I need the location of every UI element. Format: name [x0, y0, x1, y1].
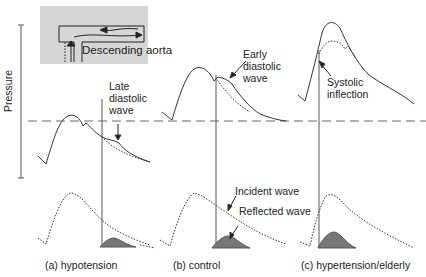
early-diastolic-line1: Early: [243, 48, 267, 60]
systolic-inflection-line1: Systolic: [327, 76, 363, 88]
pressure-axis: [18, 25, 24, 178]
early-diastolic-line3: wave: [243, 72, 268, 84]
late-diastolic-line2: diastolic: [109, 92, 147, 104]
inset-label: Descending aorta: [82, 44, 172, 56]
caption-panel-b: (b) control: [173, 259, 220, 271]
diagram-graphics: [0, 0, 426, 277]
systolic-inflection-line2: inflection: [327, 88, 368, 100]
caption-panel-c: (c) hypertension/elderly: [301, 259, 410, 271]
y-axis-label: Pressure: [2, 70, 14, 112]
early-diastolic-line2: diastolic: [243, 60, 281, 72]
panel-c-waves: [298, 23, 414, 248]
late-diastolic-line3: wave: [109, 104, 134, 116]
caption-panel-a: (a) hypotension: [45, 259, 117, 271]
pressure-wave-diagram: Descending aorta Pressure Late diastolic…: [0, 0, 426, 277]
late-diastolic-line1: Late: [109, 80, 129, 92]
reflected-wave-label: Reflected wave: [239, 205, 311, 217]
panel-b-waves: [140, 61, 286, 248]
incident-wave-label: Incident wave: [235, 185, 299, 197]
